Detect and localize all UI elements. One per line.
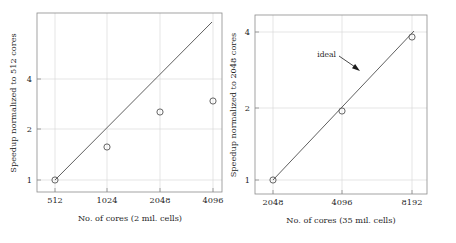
chart-panel-left: 512 1024 2048 4096 1 2 4 No. of cores (2… (0, 0, 228, 243)
left-ideal-line (55, 22, 212, 180)
right-xtick-label-0: 2048 (263, 197, 284, 207)
right-ytick-label-0: 1 (245, 175, 250, 185)
ideal-annotation-label: ideal (317, 50, 336, 59)
right-ytick-label-2: 4 (245, 27, 250, 37)
left-ytick-label-2: 4 (27, 74, 32, 84)
left-yaxis-title: Speedup normalized to 512 cores (8, 33, 18, 172)
chart-panel-right: ideal 2048 4096 8192 1 2 4 No. of cores … (228, 0, 456, 243)
right-grid-horizontal (255, 32, 427, 180)
left-xaxis-title: No. of cores (2 mil. cells) (78, 213, 182, 223)
left-xtick-label-1: 1024 (97, 195, 118, 205)
left-grid-vertical (55, 13, 213, 192)
right-yaxis-title: Speedup normalized to 2048 cores (228, 33, 238, 178)
right-grid-vertical (273, 15, 412, 194)
left-data-markers (52, 98, 216, 183)
right-xtick-label-1: 4096 (332, 197, 353, 207)
left-grid-horizontal (37, 79, 222, 180)
right-xaxis-title: No. of cores (35 mil. cells) (286, 215, 395, 225)
left-plot-svg: 512 1024 2048 4096 1 2 4 No. of cores (2… (0, 0, 228, 243)
right-plot-frame (255, 15, 427, 194)
left-xtick-label-3: 4096 (203, 195, 224, 205)
left-ytick-label-1: 2 (27, 124, 32, 134)
figure-container: 512 1024 2048 4096 1 2 4 No. of cores (2… (0, 0, 456, 243)
right-plot-svg: ideal 2048 4096 8192 1 2 4 No. of cores … (228, 0, 456, 243)
ideal-arrow-head (352, 64, 360, 71)
left-xtick-label-2: 2048 (150, 195, 171, 205)
right-xtick-label-2: 8192 (402, 197, 423, 207)
left-xtick-label-0: 512 (47, 195, 63, 205)
right-ytick-label-1: 2 (245, 103, 250, 113)
right-ideal-annotation: ideal (317, 50, 360, 71)
left-tickmarks (37, 79, 213, 192)
left-ytick-label-0: 1 (27, 175, 32, 185)
right-ideal-line (273, 31, 414, 180)
